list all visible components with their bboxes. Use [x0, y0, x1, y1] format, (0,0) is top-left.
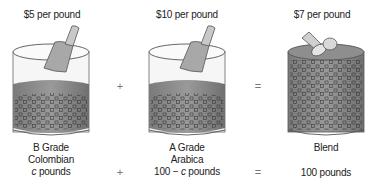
amount-text: c pounds: [28, 166, 74, 178]
container-b-grade: [13, 26, 89, 135]
variety-text: Arabica: [154, 154, 220, 166]
equals-operator: =: [255, 80, 261, 92]
container-blend: [288, 32, 364, 135]
container-a-grade: [149, 26, 225, 135]
amount-text: 100 − c pounds: [154, 166, 220, 178]
price-label-b-grade: $5 per pound: [24, 9, 81, 20]
grade-text: A Grade: [154, 142, 220, 154]
label-a-grade: A Grade Arabica 100 − c pounds: [154, 142, 220, 178]
label-blend: Blend: [314, 142, 339, 154]
grade-text: B Grade: [28, 142, 74, 154]
grade-text: Blend: [314, 142, 339, 154]
amount-blend: 100 pounds: [301, 167, 351, 178]
price-label-blend: $7 per pound: [294, 9, 351, 20]
variety-text: Colombian: [28, 154, 74, 166]
plus-operator-amount: +: [117, 166, 123, 178]
label-b-grade: B Grade Colombian c pounds: [28, 142, 74, 178]
price-label-a-grade: $10 per pound: [156, 9, 218, 20]
plus-operator: +: [117, 80, 123, 92]
equals-operator-amount: =: [255, 166, 261, 178]
